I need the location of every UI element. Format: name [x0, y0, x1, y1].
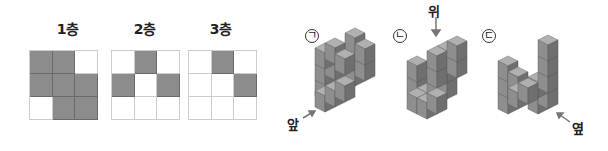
cube-figures [0, 0, 608, 151]
figure-1-cubes [315, 28, 375, 112]
figure-3-cubes [498, 35, 558, 114]
figure-2-cubes [407, 36, 467, 119]
